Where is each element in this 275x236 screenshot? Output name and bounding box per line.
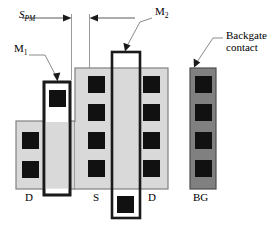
m1-active-overlap bbox=[45, 122, 68, 189]
contact-square bbox=[195, 160, 212, 177]
metal-m2-label: M2 bbox=[155, 6, 169, 20]
m1-base: M bbox=[14, 42, 24, 54]
terminal-label-drain-right: D bbox=[148, 192, 156, 204]
contact-square bbox=[88, 104, 105, 121]
terminal-label-source: S bbox=[93, 192, 99, 204]
metal-m1-label: M1 bbox=[14, 43, 28, 57]
contact-square bbox=[88, 160, 105, 177]
backgate-label-line-1: Backgate bbox=[226, 30, 267, 42]
contact-square bbox=[195, 104, 212, 121]
backgate-contact-label: Backgate contact bbox=[226, 30, 267, 53]
spm-dimension-label: SPM bbox=[19, 9, 35, 23]
contact-square bbox=[88, 132, 105, 149]
figure-container: SPM M1 M2 Backgate contact D S D BG bbox=[0, 0, 275, 236]
backgate-label-line-2: contact bbox=[226, 42, 267, 54]
m2-base: M bbox=[155, 5, 165, 17]
terminal-label-backgate: BG bbox=[193, 192, 208, 204]
contact-square bbox=[143, 132, 160, 149]
contact-square bbox=[88, 76, 105, 93]
contact-square bbox=[22, 132, 39, 149]
m2-subscript: 2 bbox=[165, 11, 169, 20]
contact-square bbox=[143, 104, 160, 121]
spm-subscript: PM bbox=[25, 14, 36, 23]
m1-subscript: 1 bbox=[24, 48, 28, 57]
gate-dimension-arrow bbox=[90, 15, 136, 22]
contact-square bbox=[49, 90, 66, 107]
contact-square bbox=[117, 196, 134, 213]
contact-square bbox=[143, 76, 160, 93]
terminal-label-drain-left: D bbox=[25, 192, 33, 204]
backgate-leader bbox=[194, 38, 223, 68]
contact-square bbox=[143, 160, 160, 177]
contact-square bbox=[195, 132, 212, 149]
contact-square bbox=[22, 161, 39, 178]
m2-leader bbox=[123, 18, 152, 52]
contact-square bbox=[195, 76, 212, 93]
m1-leader bbox=[29, 55, 60, 82]
